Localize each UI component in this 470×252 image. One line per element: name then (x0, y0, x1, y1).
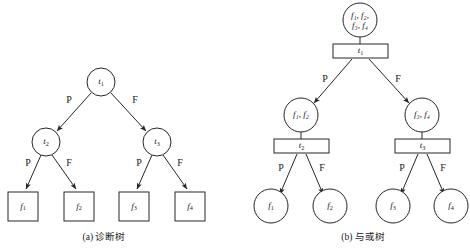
node-root-faults-label-line1: f₁, f₂, (351, 10, 369, 20)
edge-t3-f4 (427, 154, 444, 194)
edge-t2-f2-label: F (66, 157, 72, 168)
node-test-t1-label-sub: 1 (360, 49, 363, 56)
panel-a: PFPFPFt1t2t3f1f2f3f4(a) 诊断树 (8, 68, 205, 243)
node-root-faults-label-line2: f₃, f₄ (352, 20, 368, 30)
edge-t1-faults12 (314, 59, 352, 103)
edge-t1-faults12-label: P (322, 73, 328, 84)
diagnostic-tree-figure: PFPFPFt1t2t3f1f2f3f4(a) 诊断树PFPFPFf₁, f₂,… (0, 0, 470, 252)
edge-t3-f3 (401, 154, 418, 194)
edge-t2-f1-label: P (25, 157, 31, 168)
node-faults-12-label: f₁, f₂ (293, 109, 309, 119)
edge-t1-t2 (57, 93, 91, 131)
edge-t1-t3-label: F (132, 94, 138, 105)
edge-t3-f4-label: F (177, 157, 183, 168)
edge-t1-t2-label: P (66, 94, 72, 105)
node-leaf-f1-label-sub: 1 (271, 204, 274, 211)
edge-t2-f2-label: F (319, 162, 325, 173)
svg-content-layer: PFPFPFt1t2t3f1f2f3f4(a) 诊断树PFPFPFf₁, f₂,… (8, 3, 468, 243)
node-f1-label-sub: 1 (23, 205, 26, 212)
edge-t1-faults34 (369, 59, 409, 103)
edge-t1-t3 (111, 93, 146, 131)
node-faults-34-label: f₃, f₄ (414, 109, 430, 119)
node-t1-label-sub: 1 (101, 80, 104, 87)
node-test-t2-label-sub: 2 (301, 144, 304, 151)
node-f4-label-sub: 4 (190, 205, 193, 212)
node-leaf-f4-label-sub: 4 (451, 204, 454, 211)
panel-a-caption: (a) 诊断树 (83, 231, 126, 243)
figure-root: PFPFPFt1t2t3f1f2f3f4(a) 诊断树PFPFPFf₁, f₂,… (0, 0, 470, 252)
edge-t2-f2 (306, 154, 323, 194)
edge-t3-f3-label: P (136, 157, 142, 168)
edge-t1-faults34-label: F (395, 73, 401, 84)
panel-b: PFPFPFf₁, f₂,f₃, f₄t1f₁, f₂t2f₃, f₄t3f1f… (254, 3, 468, 243)
node-f3-label-sub: 3 (134, 205, 137, 212)
node-root-faults-label: f₁, f₂,f₃, f₄ (351, 10, 369, 30)
edge-t2-f1 (280, 154, 297, 194)
node-f2-label-sub: 2 (79, 205, 82, 212)
panel-b-caption: (b) 与或树 (341, 231, 384, 243)
node-t2-label-sub: 2 (46, 140, 49, 147)
edge-t3-f3-label: P (399, 162, 405, 173)
edge-t2-f1-label: P (278, 162, 284, 173)
edge-t3-f4-label: F (440, 162, 446, 173)
node-leaf-f2-label-sub: 2 (330, 204, 333, 211)
edge-t2-f2 (52, 155, 76, 189)
node-leaf-f3-label-sub: 3 (393, 204, 396, 211)
node-t3-label-sub: 3 (157, 140, 160, 147)
node-test-t3-label-sub: 3 (422, 144, 425, 151)
edge-t3-f4 (163, 155, 187, 189)
